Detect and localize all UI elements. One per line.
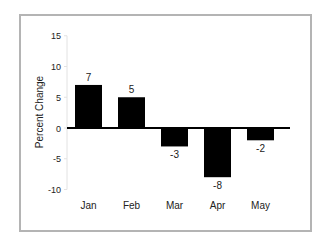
data-label: 5	[129, 84, 135, 95]
y-tick-label: 5	[56, 93, 61, 103]
y-tick-label: 10	[51, 62, 61, 72]
bar-apr	[204, 128, 231, 177]
data-label: -3	[170, 149, 179, 160]
y-tick-label: 15	[51, 31, 61, 41]
x-tick-label: May	[251, 200, 270, 211]
bar-jan	[75, 85, 102, 128]
data-label: -2	[256, 143, 265, 154]
y-tick-label: -10	[48, 185, 61, 195]
data-label: -8	[213, 180, 222, 191]
bars	[75, 85, 274, 177]
x-tick-label: Apr	[210, 200, 226, 211]
y-axis: 151050-5-10	[48, 31, 67, 195]
x-axis-labels: JanFebMarAprMay	[80, 200, 270, 211]
y-tick-label: -5	[53, 154, 61, 164]
data-label: 7	[86, 72, 92, 83]
bar-feb	[118, 97, 145, 128]
bar-may	[247, 128, 274, 140]
x-tick-label: Jan	[80, 200, 96, 211]
bar-chart: 151050-5-10 75-3-8-2 JanFebMarAprMay Per…	[0, 0, 331, 243]
bar-mar	[161, 128, 188, 146]
x-tick-label: Feb	[123, 200, 141, 211]
y-axis-title: Percent Change	[34, 75, 45, 148]
y-tick-label: 0	[56, 124, 61, 134]
x-tick-label: Mar	[166, 200, 184, 211]
